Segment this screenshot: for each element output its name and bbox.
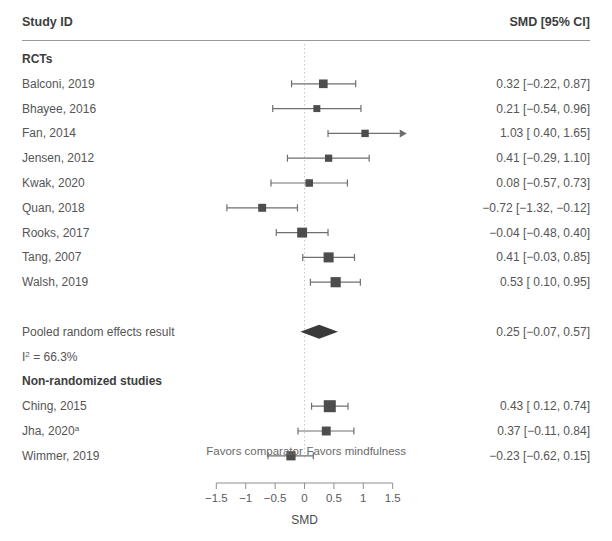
study-value: −0.23 [−0.62, 0.15] (489, 449, 590, 463)
study-value: 0.08 [−0.57, 0.73] (496, 176, 590, 190)
study-value: 0.32 [−0.22, 0.87] (496, 77, 590, 91)
effect-size-marker (324, 252, 334, 262)
study-value: 0.41 [−0.29, 1.10] (496, 151, 590, 165)
study-label: Rooks, 2017 (22, 226, 90, 240)
forest-plot-canvas: Study ID SMD [95% CI] RCTsBalconi, 20190… (0, 0, 612, 541)
study-label-text: Jha, 2020 (22, 424, 75, 438)
effect-size-marker (319, 79, 328, 88)
x-axis-tick-label: −0.5 (264, 492, 287, 504)
study-value: 0.21 [−0.54, 0.96] (496, 102, 590, 116)
effect-size-marker (322, 427, 331, 436)
study-value: 0.43 [ 0.12, 0.74] (500, 399, 590, 413)
x-axis-tick-label: 1 (360, 492, 366, 504)
study-label: Balconi, 2019 (22, 77, 95, 91)
study-label: Bhayee, 2016 (22, 102, 96, 116)
group-heading-row: Non-randomized studies (22, 374, 162, 388)
group-heading-row: RCTs (22, 52, 53, 66)
effect-size-marker (324, 400, 336, 412)
pooled-result-label: Pooled random effects result (22, 325, 175, 339)
x-axis-tick-label: 0 (301, 492, 307, 504)
study-label: Fan, 2014 (22, 126, 76, 140)
favors-comparator-label: Favors comparator (206, 445, 303, 457)
effect-size-marker (361, 130, 368, 137)
study-value: −0.04 [−0.48, 0.40] (489, 226, 590, 240)
effect-size-marker (331, 277, 341, 287)
study-label: Walsh, 2019 (22, 275, 89, 289)
x-axis-tick-label: 1.5 (385, 492, 401, 504)
effect-size-marker (313, 105, 320, 112)
favors-mindfulness-label: Favors mindfulness (306, 445, 406, 457)
group-heading-label: RCTs (22, 52, 53, 66)
x-axis-tick-label: −1.5 (205, 492, 228, 504)
study-value: −0.72 [−1.32, −0.12] (482, 201, 590, 215)
column-header-study-id: Study ID (22, 15, 73, 29)
study-value: 0.41 [−0.03, 0.85] (496, 250, 590, 264)
x-axis-title: SMD (291, 513, 318, 527)
study-label: Tang, 2007 (22, 250, 82, 264)
pooled-result-value: 0.25 [−0.07, 0.57] (496, 325, 590, 339)
group-heading-label: Non-randomized studies (22, 374, 162, 388)
effect-size-marker (297, 228, 307, 238)
study-value: 0.53 [ 0.10, 0.95] (500, 275, 590, 289)
heterogeneity-label: I2 = 66.3% (22, 350, 78, 364)
heterogeneity-value: = 66.3% (30, 350, 78, 364)
effect-size-marker (305, 179, 313, 187)
effect-size-marker (258, 204, 266, 212)
x-axis-tick-label: 0.5 (326, 492, 342, 504)
study-value: 1.03 [ 0.40, 1.65] (500, 126, 590, 140)
effect-size-marker (325, 155, 332, 162)
study-label: Quan, 2018 (22, 201, 85, 215)
study-label-superscript: a (75, 424, 80, 433)
column-header-smd-ci: SMD [95% CI] (509, 15, 590, 29)
study-label: Jha, 2020a (22, 424, 80, 438)
x-axis-tick-label: −1 (239, 492, 252, 504)
study-label: Ching, 2015 (22, 399, 87, 413)
forest-plot: Study ID SMD [95% CI] RCTsBalconi, 20190… (0, 0, 612, 541)
study-label: Jensen, 2012 (22, 151, 94, 165)
heterogeneity-row: I2 = 66.3% (22, 350, 78, 364)
study-label: Kwak, 2020 (22, 176, 85, 190)
study-label: Wimmer, 2019 (22, 449, 100, 463)
study-value: 0.37 [−0.11, 0.84] (497, 424, 590, 438)
